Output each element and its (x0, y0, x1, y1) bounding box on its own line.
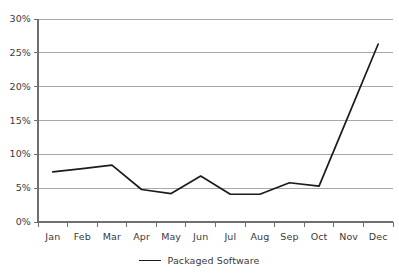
y-axis-tick-label: 15% (0, 115, 31, 126)
x-axis-tick-label: Jan (38, 231, 68, 242)
x-axis-tick-label: Oct (304, 231, 334, 242)
x-axis-tick-label: Feb (68, 231, 98, 242)
y-axis-tick-label: 25% (0, 47, 31, 58)
x-axis-tick-label: Mar (97, 231, 127, 242)
y-axis-tick-label: 30% (0, 13, 31, 24)
y-axis-tick-label: 20% (0, 81, 31, 92)
x-axis-tick-label: Dec (363, 231, 393, 242)
line-chart: 0%5%10%15%20%25%30% JanFebMarAprMayJunJu… (0, 0, 399, 273)
x-axis-tick-label: Jul (216, 231, 246, 242)
y-axis-tick-label: 10% (0, 148, 31, 159)
x-axis-tick-label: Apr (127, 231, 157, 242)
legend-label-packaged-software: Packaged Software (167, 255, 259, 266)
chart-legend: Packaged Software (0, 255, 399, 266)
x-axis-tick-label: May (156, 231, 186, 242)
x-axis-tick-label: Aug (245, 231, 275, 242)
x-axis-tick-label: Nov (334, 231, 364, 242)
y-axis-tick-label: 5% (0, 182, 31, 193)
x-axis-tick-label: Jun (186, 231, 216, 242)
legend-line-icon (139, 260, 161, 261)
x-axis-tick-label: Sep (275, 231, 305, 242)
y-axis-tick-label: 0% (0, 216, 31, 227)
